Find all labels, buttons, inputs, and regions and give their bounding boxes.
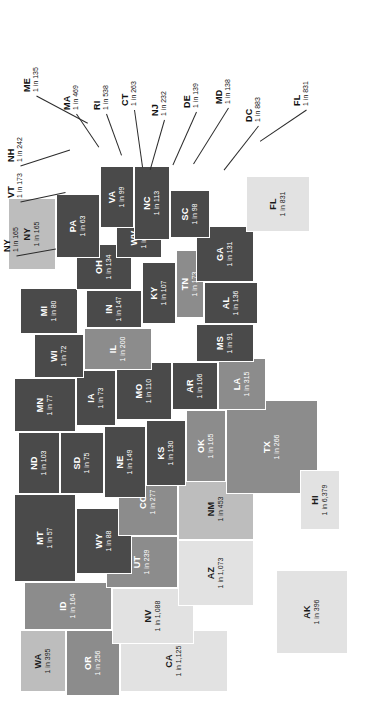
state-abbreviation: SD: [73, 452, 83, 473]
state-label: GA1 in 131: [216, 242, 233, 267]
state-label: IN1 in 147: [105, 297, 122, 322]
callout-ma[interactable]: MA1 in 469: [62, 85, 79, 110]
state-mn[interactable]: MN1 in 77: [14, 378, 76, 432]
state-label: WY1 in 88: [95, 530, 112, 551]
state-rate: 1 in 107: [160, 281, 168, 306]
state-label: OR1 in 256: [84, 651, 101, 676]
state-label: IA1 in 73: [87, 387, 104, 408]
state-wa[interactable]: WA1 in 395: [20, 630, 66, 692]
state-rate: 1 in 1,073: [217, 558, 225, 589]
state-hi[interactable]: HI1 in 6,379: [300, 470, 340, 530]
callout-dc[interactable]: DC1 in 883: [244, 97, 261, 122]
state-ia[interactable]: IA1 in 73: [76, 370, 116, 426]
callout-rate: 1 in 831: [302, 81, 309, 106]
state-nc[interactable]: NC1 in 113: [134, 166, 170, 240]
state-ar[interactable]: AR1 in 106: [172, 362, 218, 410]
callout-nj[interactable]: NJ1 in 232: [150, 91, 167, 116]
state-az[interactable]: AZ1 in 1,073: [178, 540, 254, 606]
state-nd[interactable]: ND1 in 103: [18, 432, 60, 494]
callout-leader-line: [172, 112, 197, 165]
state-rate: 1 in 134: [105, 255, 113, 280]
state-abbreviation: PA: [69, 215, 79, 236]
state-al[interactable]: AL1 in 136: [204, 282, 258, 324]
callout-ny[interactable]: NY1 in 165: [2, 227, 19, 252]
state-abbreviation: MS: [216, 332, 226, 353]
state-abbreviation: NC: [143, 191, 153, 215]
callout-rate: 1 in 469: [72, 85, 79, 110]
state-mi[interactable]: MI1 in 80: [20, 288, 78, 334]
state-il[interactable]: IL1 in 200: [84, 328, 152, 370]
state-abbreviation: FL: [269, 192, 279, 217]
state-abbreviation: WI: [50, 345, 60, 366]
state-rate: 1 in 239: [143, 550, 151, 575]
state-rate: 1 in 256: [94, 651, 102, 676]
state-va[interactable]: VA1 in 99: [100, 166, 134, 228]
state-pa[interactable]: PA1 in 63: [56, 194, 100, 258]
state-label: NC1 in 113: [143, 191, 160, 215]
state-la[interactable]: LA1 in 315: [218, 358, 266, 410]
callout-de[interactable]: DE1 in 139: [182, 83, 199, 108]
state-label: AZ1 in 1,073: [207, 558, 224, 589]
state-rate: 1 in 1,088: [154, 601, 162, 632]
state-rate: 1 in 165: [33, 222, 41, 247]
state-abbreviation: IA: [87, 387, 97, 408]
state-in[interactable]: IN1 in 147: [86, 290, 142, 328]
state-abbreviation: OK: [197, 434, 207, 459]
state-abbreviation: KY: [150, 281, 160, 306]
callout-ct[interactable]: CT1 in 263: [120, 81, 137, 106]
state-label: FL1 in 831: [269, 192, 286, 217]
callout-me[interactable]: ME1 in 135: [22, 67, 39, 92]
state-ne[interactable]: NE1 in 149: [104, 426, 146, 498]
state-fl[interactable]: FL1 in 831: [246, 176, 310, 232]
state-abbreviation: CA: [165, 646, 175, 677]
callout-rate: 1 in 232: [160, 91, 167, 116]
state-rate: 1 in 164: [69, 594, 77, 619]
state-label: NV1 in 1,088: [144, 601, 161, 632]
callout-nh[interactable]: NH1 in 242: [6, 137, 23, 162]
state-ky[interactable]: KY1 in 107: [142, 262, 176, 324]
callout-fl[interactable]: FL1 in 831: [292, 81, 309, 106]
callout-abbreviation: FL: [292, 81, 302, 106]
state-abbreviation: AK: [303, 600, 313, 625]
callout-vt[interactable]: VT1 in 173: [6, 173, 23, 198]
state-label: ND1 in 103: [30, 451, 47, 476]
state-abbreviation: GA: [216, 242, 226, 267]
state-sc[interactable]: SC1 in 98: [170, 190, 210, 238]
state-abbreviation: MN: [36, 394, 46, 415]
state-rate: 1 in 77: [46, 394, 54, 415]
state-ok[interactable]: OK1 in 165: [186, 410, 226, 482]
state-label: WI1 in 72: [50, 345, 67, 366]
state-rate: 1 in 200: [119, 337, 127, 362]
state-rate: 1 in 453: [217, 497, 225, 522]
callout-md[interactable]: MD1 in 138: [214, 79, 231, 104]
state-abbreviation: IL: [109, 337, 119, 362]
callout-abbreviation: ME: [22, 67, 32, 92]
state-mo[interactable]: MO1 in 110: [116, 362, 172, 420]
state-rate: 1 in 113: [153, 191, 161, 215]
state-ks[interactable]: KS1 in 130: [146, 420, 186, 486]
state-id[interactable]: ID1 in 164: [24, 582, 112, 630]
callout-abbreviation: MA: [62, 85, 72, 110]
state-label: AL1 in 136: [222, 291, 239, 316]
state-abbreviation: AL: [222, 291, 232, 316]
state-mt[interactable]: MT1 in 57: [14, 494, 76, 582]
state-rate: 1 in 266: [273, 435, 281, 460]
state-rate: 1 in 315: [243, 372, 251, 397]
state-label: IL1 in 200: [109, 337, 126, 362]
state-sd[interactable]: SD1 in 75: [60, 432, 104, 494]
state-rate: 1 in 106: [196, 374, 204, 399]
state-wi[interactable]: WI1 in 72: [34, 334, 84, 378]
state-abbreviation: OH: [95, 255, 105, 280]
state-label: MN1 in 77: [36, 394, 53, 415]
state-rate: 1 in 88: [105, 530, 113, 551]
callout-abbreviation: DE: [182, 83, 192, 108]
state-ms[interactable]: MS1 in 91: [196, 324, 254, 362]
state-label: NM1 in 453: [207, 497, 224, 522]
state-label: TX1 in 266: [263, 435, 280, 460]
state-label: SC1 in 98: [181, 203, 198, 224]
state-abbreviation: KS: [157, 441, 167, 466]
state-rate: 1 in 136: [232, 291, 240, 316]
callout-ri[interactable]: RI1 in 538: [92, 85, 109, 110]
callout-leader-line: [106, 114, 122, 156]
state-ak[interactable]: AK1 in 396: [276, 570, 348, 654]
